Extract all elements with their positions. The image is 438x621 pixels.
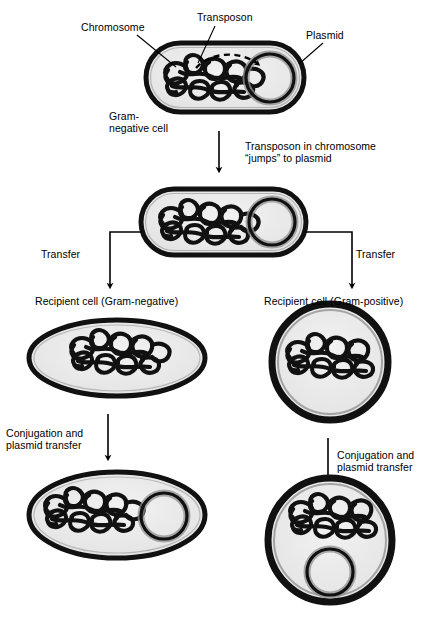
cell-wall-gram-negative bbox=[29, 320, 205, 396]
label-conjugation-left-line2: plasmid transfer bbox=[6, 440, 82, 452]
cell-recipient-right bbox=[272, 304, 388, 420]
arrow-transfer-left bbox=[110, 232, 142, 286]
arrow-transfer-right bbox=[305, 232, 352, 286]
cell-donor-middle bbox=[141, 189, 306, 255]
label-conjugation-left-line1: Conjugation and bbox=[6, 428, 83, 440]
cell-donor-top bbox=[146, 43, 304, 112]
label-recipient-right: Recipient cell (Gram-positive) bbox=[264, 296, 403, 308]
cell-recipient-left bbox=[29, 320, 205, 396]
label-chromosome: Chromosome bbox=[81, 22, 145, 34]
leader-plasmid bbox=[299, 43, 323, 64]
label-transfer-right: Transfer bbox=[356, 249, 395, 261]
label-recipient-left: Recipient cell (Gram-negative) bbox=[35, 296, 178, 308]
label-transfer-left: Transfer bbox=[41, 249, 80, 261]
label-jump-step-line2: “jumps” to plasmid bbox=[245, 153, 332, 165]
cell-transconjugant-left bbox=[29, 472, 205, 558]
cell-transconjugant-right bbox=[268, 478, 392, 602]
chromosome-tangle bbox=[287, 334, 373, 377]
label-conjugation-right-line1: Conjugation and bbox=[337, 450, 414, 462]
label-transposon: Transposon bbox=[197, 12, 253, 24]
label-gram-negative-cell-line2: negative cell bbox=[109, 123, 168, 135]
label-conjugation-right-line2: plasmid transfer bbox=[337, 462, 413, 474]
cell-wall-gram-positive bbox=[268, 478, 392, 602]
diagram-illustration bbox=[0, 0, 438, 621]
label-gram-negative-cell-line1: Gram- bbox=[109, 111, 139, 123]
label-jump-step-line1: Transposon in chromosome bbox=[245, 141, 376, 153]
chromosome-tangle bbox=[290, 494, 376, 537]
figure-canvas: Chromosome Transposon Plasmid Gram- nega… bbox=[0, 0, 438, 621]
label-plasmid: Plasmid bbox=[306, 30, 344, 42]
